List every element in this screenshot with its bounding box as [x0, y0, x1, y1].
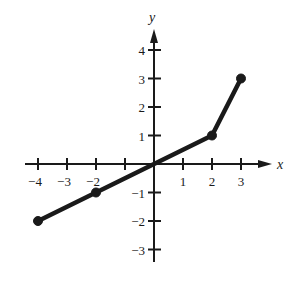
y-axis-label: y	[147, 10, 156, 25]
y-tick-label: 3	[139, 72, 146, 87]
x-tick-label: −2	[86, 174, 100, 189]
x-tick-label: 3	[238, 174, 245, 189]
x-tick-label: −3	[57, 174, 71, 189]
y-tick-label: −3	[131, 243, 145, 258]
data-series	[34, 74, 246, 226]
endpoint-dot-icon	[237, 74, 246, 83]
x-tick-label: 1	[180, 174, 187, 189]
y-tick-label: −1	[131, 186, 145, 201]
endpoint-dot-icon	[34, 217, 43, 226]
x-axis-label: x	[276, 157, 284, 172]
x-axis-arrow-icon	[258, 160, 272, 168]
y-axis-arrow-icon	[150, 29, 158, 43]
y-tick-label: 2	[139, 100, 146, 115]
x-tick-label: −4	[28, 174, 42, 189]
endpoint-dot-icon	[92, 188, 101, 197]
y-tick-label: −2	[131, 214, 145, 229]
y-tick-label: 1	[139, 129, 146, 144]
x-tick-label: 2	[209, 174, 216, 189]
function-graph: xy−4−3−2123−3−2−11234	[0, 0, 299, 293]
y-tick-label: 4	[139, 43, 146, 58]
endpoint-dot-icon	[208, 131, 217, 140]
axes	[25, 29, 272, 262]
